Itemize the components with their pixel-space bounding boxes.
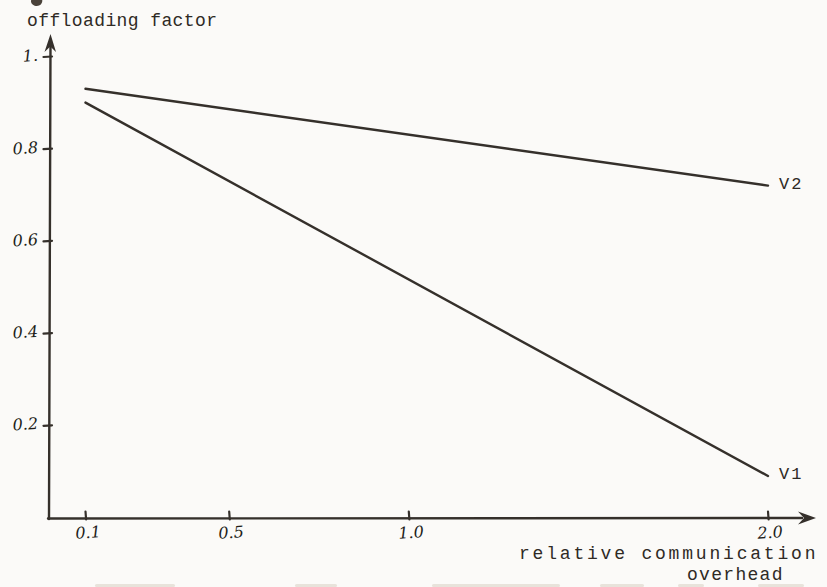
x-tick <box>409 512 410 520</box>
y-tick <box>44 149 53 150</box>
x-tick-label-2.0: 2.0 <box>747 521 792 543</box>
y-tick <box>44 333 53 334</box>
chart-canvas <box>0 0 827 587</box>
y-tick-label-0.6: 0.6 <box>1 230 38 251</box>
scanned-figure-page: offloading factor relative communication… <box>0 0 827 587</box>
x-tick-label-0.5: 0.5 <box>209 521 254 543</box>
y-tick-label-1.: 1. <box>1 45 38 66</box>
y-tick-label-0.4: 0.4 <box>1 322 38 343</box>
x-tick-label-0.1: 0.1 <box>65 521 110 543</box>
y-tick <box>44 241 53 242</box>
x-tick <box>86 512 87 520</box>
x-axis-label-line2: overhead <box>687 565 784 585</box>
y-tick <box>44 425 53 426</box>
series-label-v1: V1 <box>779 465 803 484</box>
series-line-v2 <box>86 89 769 186</box>
x-axis-label-line1: relative communication <box>519 544 818 564</box>
y-tick <box>44 57 53 58</box>
y-tick-label-0.2: 0.2 <box>1 414 38 435</box>
x-tick <box>768 512 769 520</box>
y-axis-line <box>49 42 51 519</box>
x-axis-line <box>48 518 802 519</box>
series-line-v1 <box>86 103 769 476</box>
x-tick <box>229 512 230 520</box>
x-tick-label-1.0: 1.0 <box>388 521 433 543</box>
series-label-v2: V2 <box>779 175 803 194</box>
y-tick-label-0.8: 0.8 <box>1 137 38 158</box>
